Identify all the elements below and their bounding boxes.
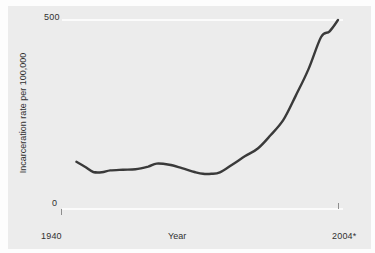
y-axis-label-max: 500 — [44, 12, 60, 22]
x-axis-title: Year — [168, 231, 186, 241]
data-line-incarceration-rate — [76, 20, 338, 174]
chart-screenshot: 500 0 1940 2004* Year Incarceration rate… — [0, 0, 375, 253]
plot-area — [0, 0, 375, 253]
x-axis-tick-start — [61, 209, 62, 215]
x-axis-label-end: 2004* — [332, 231, 357, 241]
y-axis-title: Incarceration rate per 100,000 — [18, 28, 28, 198]
x-axis-label-start: 1940 — [41, 231, 62, 241]
y-axis-label-min: 0 — [52, 198, 57, 208]
x-axis-tick-end — [338, 203, 339, 209]
